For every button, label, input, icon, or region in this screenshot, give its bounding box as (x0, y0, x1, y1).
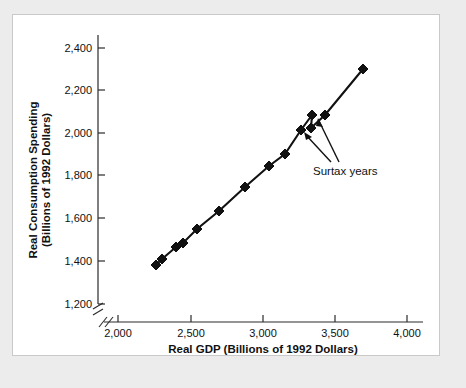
y-tick-label-1400: 1,400 (64, 255, 92, 267)
annotation-leader-2 (319, 121, 339, 162)
y-tick-label-2400: 2,400 (64, 42, 92, 54)
surtax-years-label: Surtax years (313, 165, 378, 177)
y-tick-label-2000: 2,000 (64, 127, 92, 139)
x-tick-label-2500: 2,500 (177, 327, 205, 339)
y-axis-ticks (98, 48, 105, 304)
y-axis-title-line1: Real Consumption Spending (27, 101, 39, 258)
y-tick-label-1800: 1,800 (64, 169, 92, 181)
x-axis-ticks (118, 315, 407, 322)
x-tick-label-3500: 3,500 (321, 327, 349, 339)
x-tick-label-3000: 3,000 (249, 327, 277, 339)
y-axis-break-mark (93, 303, 103, 315)
y-axis-title-line2: (Billions of 1992 Dollars) (40, 113, 52, 247)
y-tick-label-1200: 1,200 (64, 298, 92, 310)
y-tick-label-2200: 2,200 (64, 84, 92, 96)
y-tick-label-1600: 1,600 (64, 212, 92, 224)
figure-panel: 2,400 2,200 2,000 1,800 1,600 1,400 1,20… (12, 14, 440, 356)
scatter-line-chart: 2,400 2,200 2,000 1,800 1,600 1,400 1,20… (13, 15, 439, 355)
x-tick-label-4000: 4,000 (393, 327, 421, 339)
x-tick-label-2000: 2,000 (104, 327, 132, 339)
x-axis-title: Real GDP (Billions of 1992 Dollars) (168, 343, 358, 355)
